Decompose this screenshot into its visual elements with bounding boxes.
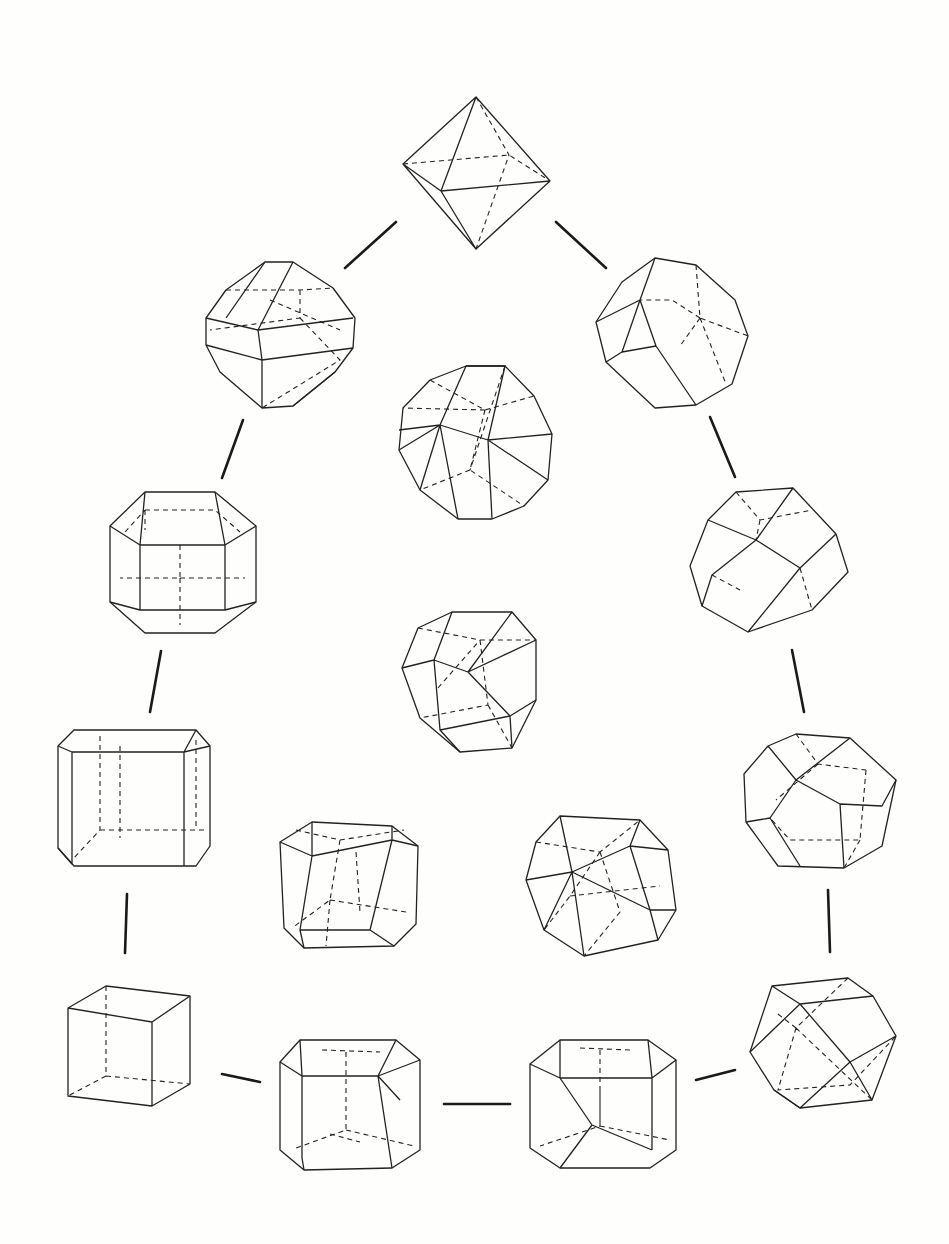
- center-right-polyhedron: [526, 816, 676, 956]
- connector-modified-right-to-cuboctahedron: [828, 890, 830, 952]
- right-modified-polyhedron: [744, 734, 896, 868]
- center-middle-polyhedron: [402, 612, 536, 752]
- upper-left-polyhedron: [206, 262, 355, 408]
- right-truncated-octahedron: [690, 488, 848, 632]
- bottom-left-polyhedron: [280, 1040, 420, 1170]
- left-bevelled-cube: [58, 730, 210, 866]
- connector-rhombicubo-left-to-trunc-cube-left: [150, 651, 161, 712]
- polyhedra-diagram: [0, 0, 949, 1244]
- connector-trunc-oct-upper-left-to-rhombicubo-left: [222, 420, 243, 478]
- connector-trapezo-upper-right-to-trunc-oct-right: [710, 417, 735, 477]
- connector-cubo-bottom-to-cuboctahedron: [696, 1070, 735, 1080]
- upper-right-polyhedron: [596, 258, 748, 408]
- connector-trunc-oct-right-to-modified-right: [792, 650, 804, 712]
- cube-shape: [68, 986, 190, 1106]
- center-left-polyhedron: [280, 822, 418, 948]
- connector-octahedron-to-trunc-oct-upper-left: [345, 222, 396, 268]
- left-rhombicubo-polyhedron: [110, 492, 256, 633]
- cuboctahedron-shape: [750, 978, 896, 1108]
- connector-lines: [125, 222, 830, 1104]
- connector-trunc-cube-left-to-cube: [125, 894, 127, 953]
- connector-octahedron-to-trapezo-upper-right: [556, 222, 606, 268]
- connector-cube-to-trunc-cube-bottom: [222, 1074, 260, 1082]
- octahedron-shape: [403, 97, 550, 249]
- bottom-right-polyhedron: [530, 1040, 676, 1168]
- center-upper-polyhedron: [399, 366, 552, 519]
